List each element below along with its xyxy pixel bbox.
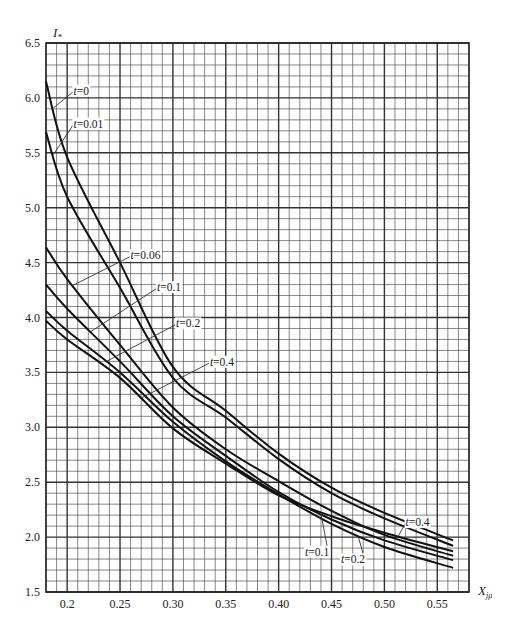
y-tick-label: 2.5: [25, 475, 40, 489]
y-tick-label: 3.0: [25, 420, 40, 434]
y-tick-label: 6.5: [25, 36, 40, 50]
curve-label: t=0.01: [73, 118, 103, 130]
chart: t=0t=0.01t=0.06t=0.1t=0.2t=0.4t=0.4t=0.1…: [0, 0, 514, 633]
y-tick-label: 3.5: [25, 365, 40, 379]
curve-label: t=0.06: [131, 249, 161, 261]
x-tick-label: 0.40: [268, 597, 289, 611]
curve-label: t=0.2: [341, 553, 365, 565]
curve-label: t=0.4: [210, 356, 234, 368]
curve-label: t=0.1: [305, 546, 329, 558]
x-tick-label: 0.30: [162, 597, 183, 611]
curve-t-0_06: [46, 247, 453, 556]
y-axis-ticks: 1.52.02.53.03.54.04.55.05.56.06.5: [25, 36, 40, 599]
y-tick-label: 4.0: [25, 311, 40, 325]
curve-label: t=0.1: [157, 281, 181, 293]
curve-t-0_1: [46, 285, 453, 561]
y-tick-label: 5.5: [25, 146, 40, 160]
x-tick-label: 0.45: [321, 597, 342, 611]
x-axis-label: Xjμ: [477, 583, 492, 600]
curve-label: t=0.2: [176, 317, 200, 329]
x-axis-ticks: 0.20.250.300.350.400.450.500.55: [60, 597, 448, 611]
x-tick-label: 0.25: [110, 597, 131, 611]
leader-line: [72, 256, 130, 285]
curve-t-0_01: [46, 132, 453, 546]
curve-label: t=0.4: [406, 516, 430, 528]
curve-label: t=0: [73, 85, 89, 97]
y-tick-label: 2.0: [25, 530, 40, 544]
x-tick-label: 0.35: [215, 597, 236, 611]
x-tick-label: 0.55: [427, 597, 448, 611]
y-axis-label: I*: [52, 25, 62, 42]
x-tick-label: 0.2: [60, 597, 75, 611]
y-tick-label: 6.0: [25, 91, 40, 105]
y-tick-label: 4.5: [25, 256, 40, 270]
leader-line: [321, 514, 327, 546]
y-tick-label: 1.5: [25, 585, 40, 599]
curves: [46, 81, 453, 567]
x-tick-label: 0.50: [374, 597, 395, 611]
y-tick-label: 5.0: [25, 201, 40, 215]
